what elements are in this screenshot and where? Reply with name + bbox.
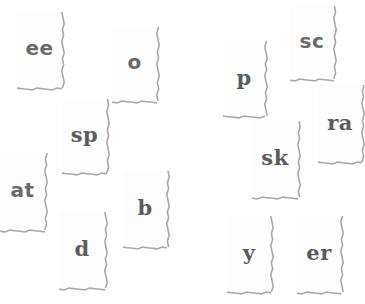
tile-o[interactable]: o	[112, 27, 157, 101]
tile-label: sk	[252, 145, 298, 170]
tile-b[interactable]: b	[123, 171, 167, 247]
tile-label: ra	[318, 109, 362, 134]
torn-edge-bottom	[223, 115, 265, 118]
torn-edge-bottom	[290, 78, 334, 81]
tile-ra[interactable]: ra	[318, 85, 362, 162]
tile-sp[interactable]: sp	[62, 99, 107, 173]
torn-edge-bottom	[252, 196, 298, 199]
torn-edge-bottom	[318, 161, 362, 164]
torn-edge-bottom	[62, 172, 107, 175]
tile-label: ee	[17, 36, 62, 60]
tile-label: d	[59, 236, 105, 261]
tile-label: er	[297, 240, 341, 265]
torn-edge-bottom	[0, 229, 45, 232]
tile-label: sc	[290, 29, 334, 53]
tile-sk[interactable]: sk	[252, 121, 298, 197]
tile-y[interactable]: y	[227, 216, 271, 292]
tile-p[interactable]: p	[223, 41, 265, 116]
torn-edge-bottom	[59, 287, 105, 290]
tile-sc[interactable]: sc	[290, 6, 334, 79]
torn-edge-bottom	[227, 291, 271, 294]
tile-label: b	[123, 195, 167, 220]
tile-at[interactable]: at	[0, 153, 45, 230]
tile-label: at	[0, 178, 45, 202]
tile-ee[interactable]: ee	[17, 12, 62, 88]
torn-edge-bottom	[112, 100, 157, 103]
tile-label: p	[223, 64, 265, 89]
torn-edge-bottom	[297, 291, 341, 294]
tile-label: y	[227, 240, 271, 265]
tile-d[interactable]: d	[59, 212, 105, 288]
torn-edge-bottom	[17, 87, 62, 90]
tile-label: sp	[62, 122, 107, 147]
torn-edge-bottom	[123, 246, 167, 249]
tile-label: o	[112, 50, 157, 74]
tile-er[interactable]: er	[297, 216, 341, 292]
